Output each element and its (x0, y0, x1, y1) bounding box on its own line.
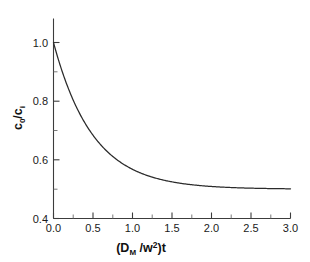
y-tick-label-3: 0.6 (33, 154, 48, 166)
x-tick-label-2: 0.5 (85, 222, 100, 234)
y-axis-title-num: c (11, 123, 25, 130)
y-tick-label-2: 0.8 (33, 95, 48, 107)
plot-area: 1.0 0.8 0.6 0.4 0.0 0.5 1.0 1.5 2.0 2.5 … (0, 0, 310, 262)
x-tick-label-1: 0.0 (46, 222, 61, 234)
svg-text:(DM /w2)t: (DM /w2)t (116, 240, 166, 258)
x-axis-major-ticks (54, 213, 291, 219)
y-axis-title-slash: /c (11, 108, 25, 118)
x-axis-title-close: )t (157, 241, 166, 255)
x-tick-label-3: 1.0 (125, 222, 140, 234)
x-axis-title: (DM /w2)t (116, 240, 166, 258)
x-tick-label-6: 2.5 (243, 222, 258, 234)
x-tick-label-5: 2.0 (204, 222, 219, 234)
y-axis-title: c0/ci (11, 106, 27, 130)
x-tick-label-7: 3.0 (283, 222, 298, 234)
y-tick-label-1: 1.0 (33, 37, 48, 49)
y-axis-title-den-sub: i (18, 106, 27, 108)
x-axis-title-open: (D (116, 241, 129, 255)
svg-text:c0/ci: c0/ci (11, 106, 27, 130)
data-series-curve (54, 43, 291, 189)
x-tick-label-4: 1.5 (164, 222, 179, 234)
y-axis-minor-ticks (54, 72, 58, 189)
chart-figure: 1.0 0.8 0.6 0.4 0.0 0.5 1.0 1.5 2.0 2.5 … (0, 0, 310, 262)
x-axis-title-mid: /w (136, 241, 153, 255)
